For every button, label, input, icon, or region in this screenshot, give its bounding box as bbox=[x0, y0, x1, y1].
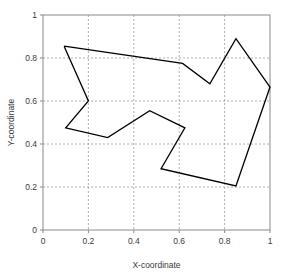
gridlines-group bbox=[43, 15, 270, 230]
y-tick-label: 1 bbox=[32, 10, 37, 20]
x-tick-labels: 00.20.40.60.81 bbox=[41, 236, 273, 246]
y-tick-label: 0.4 bbox=[25, 139, 37, 149]
x-tick-label: 0.6 bbox=[173, 236, 185, 246]
plot-frame bbox=[43, 15, 270, 230]
y-axis-title: Y-coordinate bbox=[6, 99, 16, 147]
x-tick-label: 0 bbox=[41, 236, 46, 246]
polygon-plot: 00.20.40.60.81 00.20.40.60.81 X-coordina… bbox=[0, 0, 286, 276]
y-tick-label: 0.2 bbox=[25, 182, 37, 192]
x-tick-label: 0.2 bbox=[82, 236, 94, 246]
data-series-group bbox=[64, 39, 270, 186]
y-tick-label: 0 bbox=[32, 225, 37, 235]
x-tick-label: 0.4 bbox=[128, 236, 140, 246]
x-tick-label: 0.8 bbox=[219, 236, 231, 246]
y-tick-label: 0.6 bbox=[25, 96, 37, 106]
y-tick-label: 0.8 bbox=[25, 53, 37, 63]
x-axis-title: X-coordinate bbox=[132, 260, 180, 270]
chart-figure: 00.20.40.60.81 00.20.40.60.81 X-coordina… bbox=[0, 0, 286, 276]
y-tick-labels: 00.20.40.60.81 bbox=[25, 10, 37, 235]
x-tick-label: 1 bbox=[268, 236, 273, 246]
axis-box bbox=[43, 15, 270, 230]
data-polyline bbox=[64, 39, 270, 186]
